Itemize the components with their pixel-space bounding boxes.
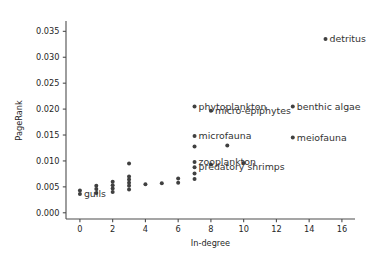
data-point [78,192,82,196]
x-tick-label: 10 [238,224,248,234]
y-axis-ticks: 0.0000.0050.0100.0150.0200.0250.0300.035 [36,26,66,217]
y-tick-label: 0.005 [36,182,59,192]
data-point [324,37,328,41]
y-tick-label: 0.015 [36,130,59,140]
data-point [193,165,197,169]
x-tick-label: 8 [208,224,213,234]
x-tick-label: 16 [337,224,347,234]
data-point [193,105,197,109]
x-tick-label: 14 [304,224,314,234]
data-points-group [78,37,328,196]
x-tick-label: 6 [176,224,181,234]
data-point [127,174,131,178]
data-point [176,181,180,185]
data-point [127,187,131,191]
axes-spines [66,21,355,219]
x-tick-label: 2 [110,224,115,234]
x-tick-label: 12 [271,224,281,234]
point-annotation-label: micro-epiphytes [215,105,291,116]
y-tick-label: 0.035 [36,26,59,36]
x-tick-label: 4 [143,224,148,234]
y-tick-label: 0.030 [36,52,59,62]
data-point [193,144,197,148]
data-point [127,162,131,166]
y-axis-label: PageRank [14,100,24,141]
y-tick-label: 0.000 [36,208,59,218]
point-annotation-label: benthic algae [297,101,361,112]
data-point [143,182,147,186]
data-point [291,136,295,140]
point-annotation-label: microfauna [199,130,252,141]
point-annotation-label: zooplankton [199,156,256,167]
data-point [225,143,229,147]
plot-canvas: 0246810121416 0.0000.0050.0100.0150.0200… [0,0,388,267]
y-tick-label: 0.010 [36,156,59,166]
x-axis-ticks: 0246810121416 [77,219,347,234]
data-point [176,177,180,181]
data-point [193,160,197,164]
y-tick-label: 0.025 [36,78,59,88]
data-point [160,181,164,185]
point-annotation-label: gulls [84,188,106,199]
data-point [291,105,295,109]
point-annotation-label: meiofauna [297,132,347,143]
data-labels-group: gullspredatory shrimpszooplanktonmicrofa… [84,33,366,199]
data-point [193,134,197,138]
y-tick-label: 0.020 [36,104,59,114]
data-point [111,190,115,194]
data-point [111,180,115,184]
data-point [111,183,115,187]
data-point [193,171,197,175]
x-axis-label: In-degree [191,238,230,248]
data-point [193,177,197,181]
scatter-plot-figure: 0246810121416 0.0000.0050.0100.0150.0200… [0,0,388,267]
x-tick-label: 0 [77,224,82,234]
data-point [78,188,82,192]
point-annotation-label: detritus [330,33,366,44]
